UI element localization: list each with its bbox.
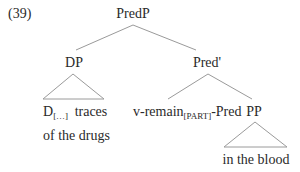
branch-predbar-to-pp: [208, 74, 252, 99]
pred-suffix: -Pred: [211, 104, 241, 119]
dp-terminal-line1: D[…] traces: [43, 104, 107, 120]
node-pp: PP: [246, 104, 262, 120]
traces-word: traces: [75, 104, 108, 119]
branch-predp-to-dp: [76, 25, 133, 50]
pp-terminal: in the blood: [223, 152, 290, 168]
v-remain-text: v-remain: [133, 104, 184, 119]
d-head: D: [43, 104, 53, 119]
example-number: (39): [8, 6, 31, 22]
tree-branches: [0, 0, 300, 172]
dp-triangle: [43, 74, 104, 99]
node-predbar: Pred': [193, 55, 221, 71]
pp-triangle: [224, 122, 287, 147]
part-subscript: [PART]: [184, 111, 212, 121]
node-predp: PredP: [116, 6, 149, 22]
branch-predp-to-predbar: [133, 25, 196, 50]
d-head-subscript: […]: [53, 111, 68, 121]
node-v-remain-pred: v-remain[PART]-Pred: [133, 104, 242, 120]
node-dp: DP: [65, 55, 83, 71]
dp-terminal-line2: of the drugs: [43, 128, 110, 144]
branch-predbar-to-vremain: [168, 74, 208, 99]
